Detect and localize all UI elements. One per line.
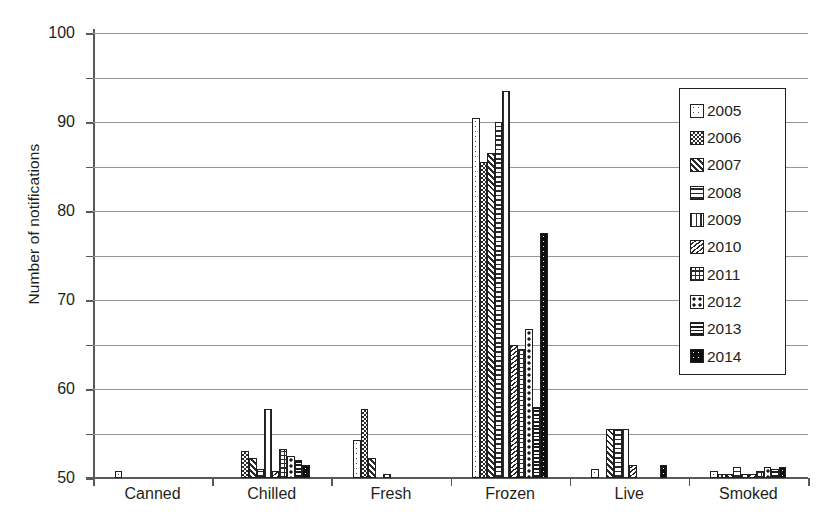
y-axis-tick: 40 <box>86 300 93 302</box>
y-axis-tick: 80 <box>86 122 93 124</box>
y-axis-tick: 10 <box>86 434 93 436</box>
x-axis-label-fresh: Fresh <box>370 485 411 503</box>
gridline <box>93 434 808 435</box>
legend-swatch-icon-2008 <box>690 186 704 200</box>
bar-chilled-2008 <box>257 469 265 478</box>
x-axis-label-frozen: Frozen <box>485 485 535 503</box>
legend-item-2014[interactable]: 2014 <box>690 343 785 370</box>
bar-frozen-2006 <box>480 162 488 478</box>
y-axis-tick-label: 100 <box>48 25 75 41</box>
x-axis-tick <box>331 478 333 486</box>
bar-chilled-2009 <box>264 409 272 478</box>
legend-item-2005[interactable]: 2005 <box>690 97 785 124</box>
legend-label: 2010 <box>707 239 741 255</box>
bar-fresh-2005 <box>353 440 361 478</box>
legend-label: 2005 <box>707 103 741 119</box>
legend-label: 2009 <box>707 212 741 228</box>
legend-swatch-icon-2006 <box>690 131 704 145</box>
bar-frozen-2010 <box>510 345 518 479</box>
bar-smoked-2011 <box>756 471 764 478</box>
y-axis-tick-label: 70 <box>57 292 75 308</box>
legend-item-2009[interactable]: 2009 <box>690 206 785 233</box>
legend-label: 2014 <box>707 349 741 365</box>
bar-smoked-2009 <box>741 474 749 478</box>
x-axis-tick <box>93 478 95 486</box>
legend-label: 2013 <box>707 321 741 337</box>
bar-frozen-2013 <box>533 407 541 478</box>
bar-fresh-2006 <box>361 409 369 478</box>
bar-live-2010 <box>629 465 637 478</box>
bar-live-2005 <box>591 469 599 478</box>
bar-smoked-2005 <box>710 471 718 478</box>
bar-chilled-2012 <box>287 456 295 478</box>
bar-fresh-2007 <box>368 458 376 478</box>
x-axis-label-live: Live <box>615 485 644 503</box>
x-axis-label-chilled: Chilled <box>247 485 296 503</box>
legend-swatch-icon-2007 <box>690 158 704 172</box>
y-axis-tick-label: 50 <box>57 470 75 486</box>
bar-smoked-2006 <box>718 474 726 478</box>
y-axis-tick: 100 <box>86 33 93 35</box>
legend-swatch-icon-2010 <box>690 240 704 254</box>
legend-item-2012[interactable]: 2012 <box>690 288 785 315</box>
bar-chilled-2007 <box>249 458 257 478</box>
legend-label: 2008 <box>707 185 741 201</box>
bar-live-2007 <box>606 429 614 478</box>
legend-swatch-icon-2013 <box>690 322 704 336</box>
bar-canned-2005 <box>115 471 123 478</box>
bar-smoked-2007 <box>726 474 734 478</box>
x-axis-tick <box>212 478 214 486</box>
bar-chart: Number of notifications 0102030405060708… <box>0 0 827 529</box>
legend-swatch-icon-2012 <box>690 295 704 309</box>
gridline <box>93 389 808 390</box>
legend: 2005200620072008200920102011201220132014 <box>679 88 786 375</box>
bar-live-2008 <box>614 429 622 478</box>
legend-swatch-icon-2005 <box>690 104 704 118</box>
bar-smoked-2012 <box>764 467 772 478</box>
bar-chilled-2014 <box>302 465 310 478</box>
legend-label: 2012 <box>707 294 741 310</box>
x-axis-tick <box>451 478 453 486</box>
y-axis-tick: 30 <box>86 345 93 347</box>
y-axis-tick-label: 60 <box>57 381 75 397</box>
bar-frozen-2007 <box>487 153 495 478</box>
x-axis-label-canned: Canned <box>125 485 181 503</box>
x-axis-line <box>86 477 808 479</box>
legend-label: 2011 <box>707 267 740 283</box>
bar-smoked-2010 <box>748 474 756 478</box>
y-axis-title: Number of notifications <box>25 104 43 344</box>
x-axis-tick <box>689 478 691 486</box>
legend-item-2006[interactable]: 2006 <box>690 124 785 151</box>
legend-item-2010[interactable]: 2010 <box>690 233 785 260</box>
y-axis-tick: 90 <box>86 78 93 80</box>
bar-smoked-2008 <box>733 467 741 478</box>
x-axis-tick <box>808 478 810 486</box>
bar-smoked-2013 <box>771 469 779 478</box>
legend-item-2007[interactable]: 2007 <box>690 152 785 179</box>
y-axis-tick: 70 <box>86 167 93 169</box>
bar-fresh-2009 <box>383 474 391 478</box>
gridline <box>93 33 808 34</box>
gridline <box>93 78 808 79</box>
y-axis-tick: 0 <box>86 478 93 480</box>
legend-item-2011[interactable]: 2011 <box>690 261 785 288</box>
bar-chilled-2006 <box>241 451 249 478</box>
y-axis-tick-label: 90 <box>57 114 75 130</box>
legend-label: 2006 <box>707 130 741 146</box>
bar-frozen-2012 <box>525 329 533 478</box>
legend-item-2013[interactable]: 2013 <box>690 315 785 342</box>
y-axis-tick: 60 <box>86 211 93 213</box>
bar-frozen-2008 <box>495 122 503 478</box>
bar-live-2014 <box>660 465 668 478</box>
bar-frozen-2009 <box>502 91 510 478</box>
bar-smoked-2014 <box>779 467 787 478</box>
bar-chilled-2011 <box>279 449 287 478</box>
bar-frozen-2005 <box>472 118 480 478</box>
bar-frozen-2014 <box>540 233 548 478</box>
x-axis-tick <box>570 478 572 486</box>
legend-item-2008[interactable]: 2008 <box>690 179 785 206</box>
bar-live-2009 <box>622 429 630 478</box>
legend-label: 2007 <box>707 157 741 173</box>
legend-swatch-icon-2011 <box>690 267 704 281</box>
legend-swatch-icon-2009 <box>690 213 704 227</box>
